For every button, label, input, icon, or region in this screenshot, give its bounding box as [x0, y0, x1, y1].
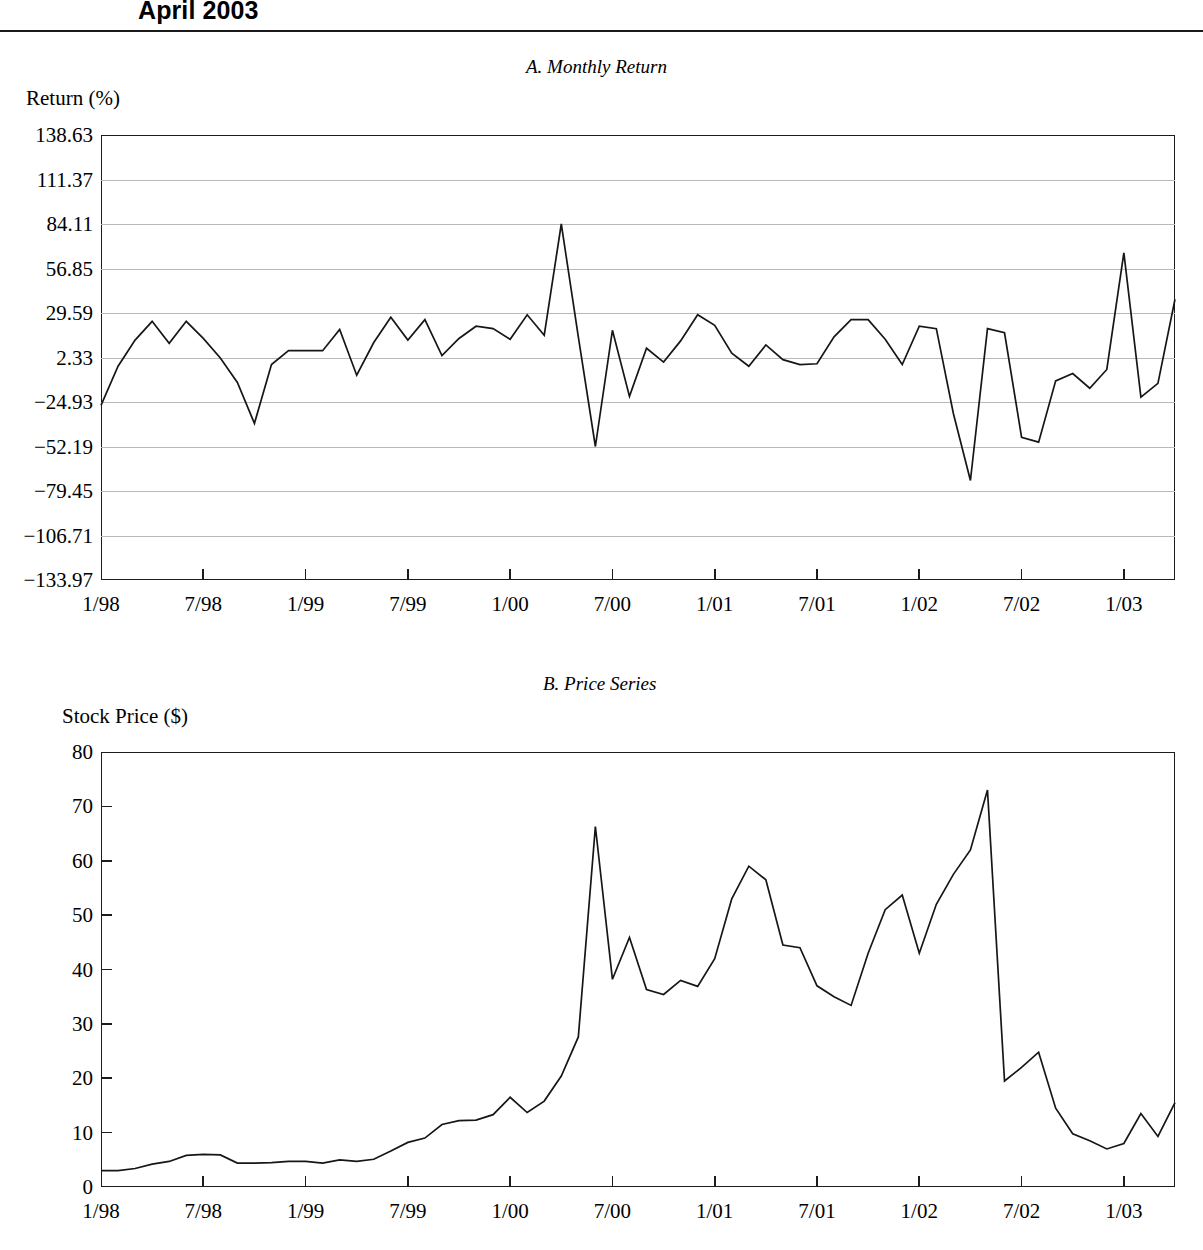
panel-b-y-axis-label: Stock Price ($) — [62, 704, 188, 729]
panel-a-y-axis-label: Return (%) — [26, 86, 120, 111]
y-tick-label: −106.71 — [5, 523, 93, 548]
x-tick-label: 7/98 — [185, 592, 222, 617]
y-tick-label: 0 — [5, 1175, 93, 1200]
y-tick-label: 138.63 — [5, 123, 93, 148]
y-tick-label: 111.37 — [5, 167, 93, 192]
x-tick-label: 7/01 — [798, 592, 835, 617]
x-tick-label: 7/98 — [185, 1199, 222, 1224]
y-tick-label: 60 — [5, 848, 93, 873]
x-tick-label: 7/00 — [594, 592, 631, 617]
y-tick-label: 70 — [5, 794, 93, 819]
y-tick-label: 40 — [5, 957, 93, 982]
panel-a-series — [101, 135, 1175, 580]
y-tick-label: 2.33 — [5, 345, 93, 370]
panel-b-title: B. Price Series — [543, 673, 656, 695]
x-tick-label: 1/02 — [901, 1199, 938, 1224]
y-tick-label: 10 — [5, 1120, 93, 1145]
page-title: April 2003 — [138, 0, 259, 25]
x-tick-label: 1/99 — [287, 1199, 324, 1224]
x-tick-label: 7/00 — [594, 1199, 631, 1224]
x-tick-label: 1/02 — [901, 592, 938, 617]
x-tick-label: 1/98 — [82, 1199, 119, 1224]
x-tick-label: 1/01 — [696, 1199, 733, 1224]
x-tick-label: 1/03 — [1105, 592, 1142, 617]
y-tick-label: 80 — [5, 740, 93, 765]
x-tick-label: 1/98 — [82, 592, 119, 617]
x-tick-label: 7/99 — [389, 592, 426, 617]
y-tick-label: 50 — [5, 903, 93, 928]
x-tick-label: 1/00 — [491, 1199, 528, 1224]
x-tick-label: 1/00 — [491, 592, 528, 617]
y-tick-label: −79.45 — [5, 479, 93, 504]
y-tick-label: 30 — [5, 1011, 93, 1036]
x-tick-label: 1/01 — [696, 592, 733, 617]
header-divider — [0, 30, 1203, 32]
y-tick-label: 20 — [5, 1066, 93, 1091]
y-tick-label: −52.19 — [5, 434, 93, 459]
x-tick-label: 7/99 — [389, 1199, 426, 1224]
y-tick-label: 29.59 — [5, 301, 93, 326]
panel-b-series — [101, 752, 1175, 1187]
page-header: April 2003 — [0, 0, 1203, 40]
x-tick-label: 7/02 — [1003, 1199, 1040, 1224]
y-tick-label: −133.97 — [5, 568, 93, 593]
x-tick-label: 1/99 — [287, 592, 324, 617]
panel-a-title: A. Monthly Return — [526, 56, 667, 78]
y-tick-label: 84.11 — [5, 212, 93, 237]
y-tick-label: 56.85 — [5, 256, 93, 281]
y-tick-label: −24.93 — [5, 390, 93, 415]
x-tick-label: 7/02 — [1003, 592, 1040, 617]
x-tick-label: 7/01 — [798, 1199, 835, 1224]
x-tick-label: 1/03 — [1105, 1199, 1142, 1224]
